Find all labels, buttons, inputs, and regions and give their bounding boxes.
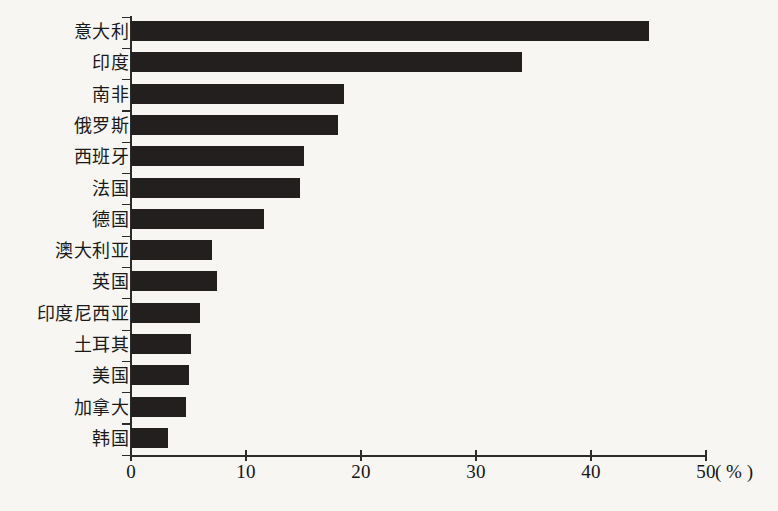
y-axis-tick (122, 204, 131, 205)
y-axis-category-label: 英国 (92, 272, 129, 292)
x-axis-tick (360, 450, 361, 461)
y-axis-tick (122, 330, 131, 331)
y-axis-category-label: 美国 (92, 366, 129, 386)
x-axis-tick (475, 450, 476, 461)
x-axis-tick-label: 0 (126, 461, 136, 483)
y-axis-tick (122, 267, 131, 268)
x-axis-tick-label: 20 (351, 461, 370, 483)
x-axis-tick-label: 40 (581, 461, 600, 483)
y-axis-category-label: 西班牙 (74, 147, 130, 167)
y-axis-tick (122, 298, 131, 299)
x-axis-tick (245, 450, 246, 461)
x-axis-tick (705, 450, 706, 461)
y-axis-tick (122, 79, 131, 80)
bar (131, 334, 191, 354)
x-axis-line (130, 455, 707, 457)
y-axis-tick (122, 361, 131, 362)
y-axis-category-label: 印度尼西亚 (37, 304, 130, 324)
chart-page: 01020304050( % )意大利印度南非俄罗斯西班牙法国德国澳大利亚英国印… (0, 0, 778, 511)
y-axis-category-label: 加拿大 (74, 398, 130, 418)
bar (131, 209, 264, 229)
y-axis-tick (122, 392, 131, 393)
bar (131, 146, 304, 166)
y-axis-tick (122, 423, 131, 424)
bar (131, 115, 338, 135)
y-axis-category-label: 南非 (92, 85, 129, 105)
bar (131, 52, 522, 72)
bar (131, 21, 649, 41)
bar-chart: 01020304050( % )意大利印度南非俄罗斯西班牙法国德国澳大利亚英国印… (0, 0, 778, 511)
bar (131, 397, 186, 417)
y-axis-tick (122, 48, 131, 49)
bar (131, 84, 344, 104)
y-axis-category-label: 法国 (92, 179, 129, 199)
y-axis-category-label: 德国 (92, 210, 129, 230)
y-axis-tick (122, 236, 131, 237)
x-axis-tick-label: 10 (236, 461, 255, 483)
bar (131, 178, 300, 198)
y-axis-category-label: 印度 (92, 53, 129, 73)
x-axis-tick-label: 30 (466, 461, 485, 483)
bar (131, 365, 189, 385)
bar (131, 428, 168, 448)
y-axis-tick (122, 17, 131, 18)
y-axis-tick (122, 110, 131, 111)
x-axis-tick-label: 50 (696, 461, 715, 483)
y-axis-tick (122, 173, 131, 174)
y-axis-tick (122, 455, 131, 456)
y-axis-tick (122, 142, 131, 143)
bar (131, 240, 212, 260)
y-axis-category-label: 澳大利亚 (55, 241, 129, 261)
y-axis-category-label: 俄罗斯 (74, 116, 130, 136)
bar (131, 303, 200, 323)
bar (131, 271, 217, 291)
y-axis-category-label: 土耳其 (74, 335, 130, 355)
x-axis-tick (590, 450, 591, 461)
x-axis-unit-label: ( % ) (715, 461, 753, 483)
y-axis-category-label: 韩国 (92, 429, 129, 449)
y-axis-category-label: 意大利 (74, 22, 130, 42)
